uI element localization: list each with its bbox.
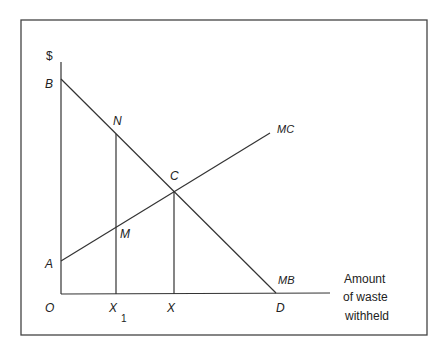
mc-curve — [61, 133, 270, 261]
diagram: $ B N C M A MC MB O X 1 X D Amount of wa… — [0, 0, 446, 353]
x-axis-label-line3: withheld — [344, 309, 389, 323]
point-b-label: B — [45, 77, 53, 91]
x-axis-label-line2: of waste — [343, 290, 388, 304]
diagram-frame — [21, 20, 427, 335]
x-axis-label-line1: Amount — [344, 272, 386, 286]
point-d-label: D — [276, 301, 285, 315]
point-n-label: N — [113, 114, 122, 128]
mc-label: MC — [277, 123, 294, 135]
point-m-label: M — [120, 227, 130, 241]
y-axis-label: $ — [46, 49, 53, 63]
mb-label: MB — [278, 274, 295, 286]
x-label: X — [166, 301, 176, 315]
x1-subscript: 1 — [121, 313, 127, 324]
point-c-label: C — [170, 169, 179, 183]
point-a-label: A — [44, 257, 53, 271]
x-axis — [61, 293, 330, 294]
x1-label: X — [108, 301, 118, 315]
origin-label: O — [45, 301, 54, 315]
mb-curve — [61, 79, 276, 293]
